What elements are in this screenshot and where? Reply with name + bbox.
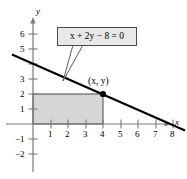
x-tick-label-1: 1	[48, 130, 53, 139]
x-tick-label-4: 4	[100, 130, 105, 139]
y-tick-label-3: 3	[20, 75, 25, 84]
x-tick-label-8: 8	[170, 130, 175, 139]
x-tick-label-2: 2	[65, 130, 70, 139]
x-axis-label: x	[175, 118, 179, 127]
y-tick-label-2: 2	[20, 90, 25, 99]
equation-callout-box: x + 2y − 8 = 0	[57, 27, 137, 46]
x-tick-label-6: 6	[135, 130, 140, 139]
x-tick-label-7: 7	[153, 130, 158, 139]
coordinate-plane-figure: x + 2y − 8 = 0 (x, y) x y 1 2 3 4 5 6 7 …	[0, 0, 187, 179]
y-axis-arrow	[30, 17, 35, 24]
equation-label: x + 2y − 8 = 0	[70, 32, 124, 42]
x-tick-label-3: 3	[83, 130, 88, 139]
point-marker	[100, 91, 106, 97]
callout-pointer	[63, 45, 83, 81]
y-tick-label-neg-1: −1	[15, 135, 25, 144]
y-tick-label-1: 1	[20, 105, 25, 114]
point-coordinate-label: (x, y)	[88, 77, 109, 87]
y-tick-label-6: 6	[20, 30, 25, 39]
x-tick-label-5: 5	[118, 130, 123, 139]
y-axis-label: y	[36, 7, 40, 16]
y-tick-label-5: 5	[20, 45, 25, 54]
y-tick-label-neg-2: −2	[15, 150, 25, 159]
